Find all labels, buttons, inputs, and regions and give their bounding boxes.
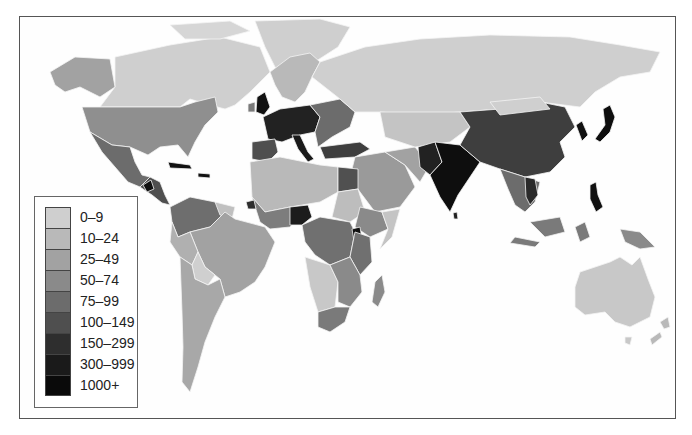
region-canada: [100, 37, 270, 109]
region-italy: [292, 135, 314, 162]
region-central-asia: [380, 112, 470, 147]
legend-label: 100–149: [80, 314, 135, 331]
region-ireland: [248, 102, 255, 112]
map-legend: 0–9 10–24 25–49 50–74 75–99 100–149 150–…: [34, 196, 138, 408]
region-senegal: [246, 200, 256, 209]
legend-swatch: [45, 291, 71, 312]
legend-label: 10–24: [80, 230, 119, 247]
legend-item: 150–299: [45, 333, 135, 354]
legend-swatch: [45, 270, 71, 291]
region-egypt: [338, 167, 358, 192]
legend-swatch: [45, 333, 71, 354]
region-russia: [312, 35, 660, 115]
region-tasmania: [625, 337, 632, 345]
legend-item: 300–999: [45, 354, 135, 375]
legend-label: 50–74: [80, 272, 119, 289]
region-south-africa: [318, 307, 350, 332]
region-caribbean: [168, 162, 210, 178]
legend-item: 75–99: [45, 291, 135, 312]
legend-swatch: [45, 249, 71, 270]
legend-item: 25–49: [45, 249, 135, 270]
legend-swatch: [45, 375, 71, 396]
legend-item: 50–74: [45, 270, 135, 291]
region-madagascar: [372, 275, 385, 307]
legend-swatch: [45, 228, 71, 249]
region-new-zealand: [650, 317, 670, 345]
legend-item: 1000+: [45, 375, 135, 396]
region-australia: [575, 257, 655, 327]
legend-label: 25–49: [80, 251, 119, 268]
legend-swatch: [45, 207, 71, 228]
legend-label: 300–999: [80, 356, 135, 373]
legend-swatch: [45, 354, 71, 375]
legend-item: 100–149: [45, 312, 135, 333]
region-sri-lanka: [453, 212, 458, 219]
legend-item: 0–9: [45, 207, 135, 228]
region-korea: [576, 121, 588, 141]
region-north-africa: [250, 157, 338, 212]
legend-swatch: [45, 312, 71, 333]
region-png: [620, 229, 655, 249]
region-philippines: [590, 182, 603, 212]
legend-item: 10–24: [45, 228, 135, 249]
region-indonesia: [510, 217, 590, 247]
region-alaska: [50, 57, 115, 97]
region-canada-islands: [170, 21, 250, 39]
map-frame: 0–9 10–24 25–49 50–74 75–99 100–149 150–…: [19, 16, 676, 419]
legend-label: 1000+: [80, 377, 119, 394]
legend-label: 150–299: [80, 335, 135, 352]
legend-label: 75–99: [80, 293, 119, 310]
region-western-europe: [263, 105, 320, 142]
legend-label: 0–9: [80, 209, 103, 226]
region-japan: [595, 105, 615, 142]
region-uk: [256, 92, 270, 115]
